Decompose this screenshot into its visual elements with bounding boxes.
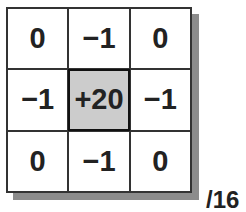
kernel-cell-r2c3: −1 bbox=[130, 69, 191, 130]
kernel-cell-r3c2: −1 bbox=[68, 131, 129, 192]
convolution-kernel-grid: 0 −1 0 −1 +20 −1 0 −1 0 bbox=[6, 7, 192, 193]
kernel-cell-r1c1: 0 bbox=[7, 8, 68, 69]
kernel-cell-center: +20 bbox=[68, 69, 129, 130]
kernel-cell-r1c3: 0 bbox=[130, 8, 191, 69]
kernel-cell-r1c2: −1 bbox=[68, 8, 129, 69]
kernel-divisor: /16 bbox=[206, 186, 239, 212]
kernel-cell-r3c1: 0 bbox=[7, 131, 68, 192]
kernel-cell-r3c3: 0 bbox=[130, 131, 191, 192]
kernel-cell-r2c1: −1 bbox=[7, 69, 68, 130]
